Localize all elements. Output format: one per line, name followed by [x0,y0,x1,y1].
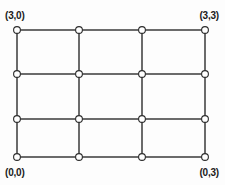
lattice-node [76,154,83,161]
corner-label-top-right: (3,3) [199,11,219,21]
lattice-figure: (3,0) (3,3) (0,0) (0,3) [0,0,225,185]
lattice-nodes [14,27,209,161]
corner-label-bottom-left: (0,0) [5,168,25,178]
horizontal-edges [17,30,205,157]
lattice-node [202,154,209,161]
lattice-node [14,71,21,78]
lattice-node [14,27,21,34]
lattice-node [14,154,21,161]
lattice-node [139,116,146,123]
lattice-node [202,71,209,78]
vertical-edges [17,30,205,157]
lattice-node [202,116,209,123]
lattice-node [76,116,83,123]
lattice-graph [0,0,225,185]
lattice-node [202,27,209,34]
lattice-node [139,71,146,78]
lattice-node [139,154,146,161]
lattice-node [139,27,146,34]
lattice-node [14,116,21,123]
corner-label-top-left: (3,0) [5,11,25,21]
lattice-node [76,27,83,34]
lattice-node [76,71,83,78]
corner-label-bottom-right: (0,3) [199,168,219,178]
